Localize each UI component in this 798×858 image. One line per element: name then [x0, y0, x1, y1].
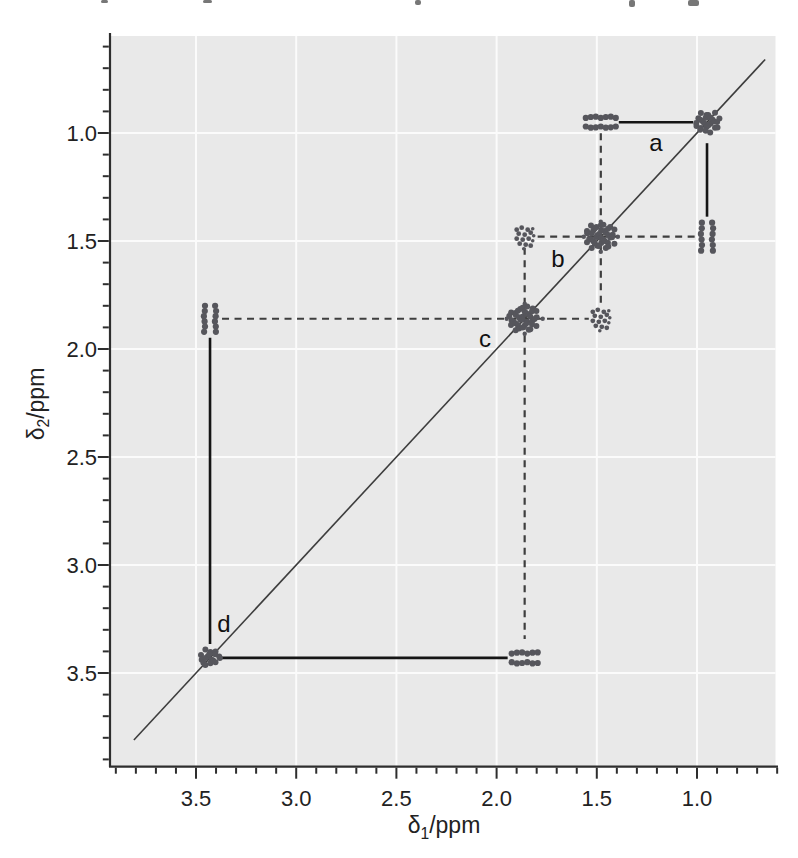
x-axis-title: δ1/ppm	[408, 812, 481, 843]
y-axis-title: δ2/ppm	[23, 368, 54, 441]
correlation-label-b: b	[551, 245, 564, 273]
y-axis-delta: δ	[23, 428, 49, 441]
y-tick-label-2.0: 2.0	[51, 337, 97, 363]
y-tick-label-3.5: 3.5	[51, 661, 97, 687]
x-tick-label-1.5: 1.5	[575, 786, 619, 812]
figure-page: 3.53.02.52.01.51.0 1.01.52.02.53.03.5 δ1…	[0, 0, 798, 858]
correlation-label-d: d	[217, 610, 230, 638]
y-tick-label-3.0: 3.0	[51, 553, 97, 579]
y-tick-label-1.5: 1.5	[51, 229, 97, 255]
x-axis-delta: δ	[408, 812, 421, 838]
y-tick-label-2.5: 2.5	[51, 445, 97, 471]
x-tick-label-1.0: 1.0	[675, 786, 719, 812]
y-tick-label-1.0: 1.0	[51, 121, 97, 147]
cosy-spectrum-plot	[0, 0, 798, 858]
correlation-label-c: c	[479, 325, 491, 353]
x-axis-subscript: 1	[420, 825, 429, 842]
y-axis-unit: /ppm	[23, 368, 49, 419]
correlation-label-a: a	[649, 129, 662, 157]
x-tick-label-3.0: 3.0	[274, 786, 318, 812]
x-tick-label-2.0: 2.0	[475, 786, 519, 812]
y-axis-subscript: 2	[35, 419, 52, 428]
x-tick-label-2.5: 2.5	[374, 786, 418, 812]
x-axis-unit: /ppm	[429, 812, 480, 838]
x-tick-label-3.5: 3.5	[174, 786, 218, 812]
